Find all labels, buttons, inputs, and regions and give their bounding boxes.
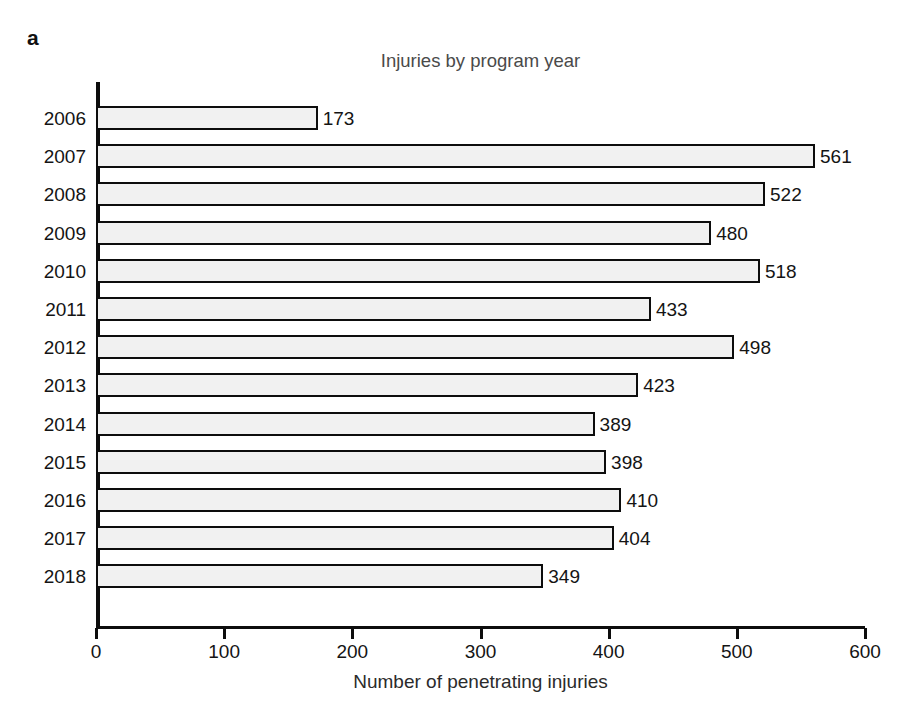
bar-value-label: 433	[656, 300, 688, 319]
y-axis-tick-label: 2016	[8, 491, 86, 510]
bar-row: 433	[96, 297, 865, 321]
bar-value-label: 389	[600, 414, 632, 433]
x-axis-tick-label: 200	[336, 642, 368, 661]
x-axis-tick-label: 0	[91, 642, 102, 661]
y-axis-tick-label: 2012	[8, 338, 86, 357]
bar-value-label: 398	[611, 452, 643, 471]
bar-row: 522	[96, 182, 865, 206]
bar	[96, 564, 543, 588]
y-axis-tick-label: 2015	[8, 453, 86, 472]
y-axis-tick-label: 2009	[8, 224, 86, 243]
bar-row: 173	[96, 106, 865, 130]
y-axis-tick-label: 2014	[8, 415, 86, 434]
bar-row: 561	[96, 144, 865, 168]
bar	[96, 373, 638, 397]
x-axis-tick-label: 100	[208, 642, 240, 661]
x-axis-tick-mark	[223, 628, 226, 639]
x-axis-tick-mark	[351, 628, 354, 639]
x-axis-tick-mark	[608, 628, 611, 639]
bar-value-label: 410	[626, 491, 658, 510]
bar	[96, 488, 621, 512]
bar-row: 398	[96, 450, 865, 474]
bar-value-label: 522	[770, 185, 802, 204]
panel-label: a	[27, 27, 39, 48]
bar-row: 389	[96, 412, 865, 436]
bar	[96, 450, 606, 474]
y-axis-tick-label: 2007	[8, 147, 86, 166]
bar-value-label: 480	[716, 223, 748, 242]
bar	[96, 182, 765, 206]
bar	[96, 526, 614, 550]
y-axis-tick-label: 2011	[8, 300, 86, 319]
bar-row: 498	[96, 335, 865, 359]
x-axis-tick-mark	[736, 628, 739, 639]
x-axis-tick-mark	[864, 628, 867, 639]
x-axis-tick-label: 500	[721, 642, 753, 661]
bar-value-label: 518	[765, 261, 797, 280]
x-axis-tick-label: 300	[465, 642, 497, 661]
y-axis-tick-label: 2008	[8, 185, 86, 204]
y-axis-tick-label: 2017	[8, 529, 86, 548]
bar	[96, 335, 734, 359]
bar-row: 349	[96, 564, 865, 588]
x-axis-tick-mark	[95, 628, 98, 639]
bar	[96, 106, 318, 130]
bar-row: 410	[96, 488, 865, 512]
y-axis-tick-label: 2010	[8, 262, 86, 281]
bar-row: 404	[96, 526, 865, 550]
bar-value-label: 423	[643, 376, 675, 395]
x-axis-tick-label: 400	[593, 642, 625, 661]
bar	[96, 259, 760, 283]
bar	[96, 297, 651, 321]
bar-value-label: 404	[619, 529, 651, 548]
y-axis-tick-label: 2006	[8, 109, 86, 128]
x-axis-tick-mark	[480, 628, 483, 639]
x-axis-title: Number of penetrating injuries	[96, 672, 865, 693]
bar-row: 480	[96, 221, 865, 245]
bar-row: 423	[96, 373, 865, 397]
plot-area: 173561522480518433498423389398410404349 …	[96, 82, 865, 628]
y-axis-tick-label: 2013	[8, 376, 86, 395]
bar	[96, 144, 815, 168]
bar-value-label: 561	[820, 147, 852, 166]
bar-value-label: 498	[739, 338, 771, 357]
figure-panel: a Injuries by program year 1735615224805…	[0, 0, 918, 727]
y-axis-tick-label: 2018	[8, 567, 86, 586]
x-axis-tick-label: 600	[849, 642, 881, 661]
bar-value-label: 349	[548, 567, 580, 586]
bar-value-label: 173	[323, 109, 355, 128]
bar	[96, 221, 711, 245]
bar-row: 518	[96, 259, 865, 283]
chart-title: Injuries by program year	[96, 51, 865, 71]
bar	[96, 412, 595, 436]
